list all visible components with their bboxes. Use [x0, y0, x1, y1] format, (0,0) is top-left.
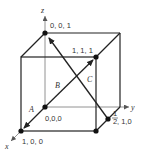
vector-b-label: B [55, 81, 60, 90]
point-origin [42, 104, 47, 109]
axes [11, 16, 129, 141]
label-half-1-0: 1 2 , 1,0 [112, 109, 132, 126]
z-axis-label: z [40, 6, 45, 15]
point-110 [93, 128, 98, 133]
label-origin: 0,0,0 [45, 114, 62, 123]
vector-a [24, 107, 45, 128]
vector-b [45, 60, 93, 107]
vector-c-label: C [87, 75, 93, 84]
unit-cube-diagram: z y x 0, 0, 1 1, 1, 1 0,0,0 1, 0, 0 1 2 … [0, 0, 145, 155]
svg-text:, 1,0: , 1,0 [117, 117, 132, 126]
point-111 [93, 54, 98, 59]
label-100: 1, 0, 0 [22, 137, 43, 146]
y-axis-label: y [130, 103, 135, 112]
x-axis-label: x [4, 142, 9, 151]
vector-a-label: A [28, 105, 34, 114]
label-111: 1, 1, 1 [72, 46, 93, 55]
point-half-1-0 [105, 116, 110, 121]
point-100 [18, 128, 23, 133]
point-001 [42, 30, 47, 35]
label-001: 0, 0, 1 [50, 21, 71, 30]
